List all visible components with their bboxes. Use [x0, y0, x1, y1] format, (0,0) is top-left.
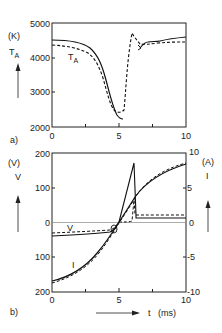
axis-label-i: I	[206, 171, 209, 181]
panel-label-b: b)	[10, 307, 18, 317]
panel-b: 200 100 0 100 200 10 5 0 -5 -10 0 5 10 (…	[8, 147, 214, 318]
ytick-right-0: 0	[189, 218, 194, 228]
curve-label-i: I	[72, 260, 75, 270]
xtick-0: 0	[49, 295, 54, 305]
xlabel-t: t	[148, 308, 151, 318]
ytick-right-10: 10	[189, 147, 199, 157]
panel-a-frame	[52, 23, 186, 127]
ytick-3000: 3000	[30, 87, 50, 97]
unit-a: (A)	[202, 157, 214, 167]
ytick-left-neg100: 100	[35, 252, 50, 262]
ytick-5000: 5000	[30, 19, 50, 29]
ytick-right-5: 5	[187, 183, 192, 193]
series-ta-dashed	[52, 33, 186, 112]
xtick-10: 10	[181, 295, 191, 305]
ytick-left-0: 0	[45, 218, 50, 228]
unit-v: (V)	[8, 158, 20, 168]
ytick-left-200: 200	[35, 149, 50, 159]
ytick-left-neg200: 200	[35, 287, 50, 297]
curve-label-v: V	[67, 223, 73, 233]
arrowhead-icon	[16, 63, 21, 71]
axis-label-t: TA	[9, 47, 20, 59]
figure: 5000 4000 3000 2000 0 5 10 (K) TA TA a)	[0, 0, 222, 333]
unit-k: (K)	[8, 31, 20, 41]
ytick-right-neg5: -5	[187, 252, 195, 262]
ytick-4000: 4000	[30, 53, 50, 63]
xtick-0: 0	[49, 131, 54, 141]
ytick-2000: 2000	[30, 123, 50, 133]
ytick-left-100: 100	[35, 183, 50, 193]
xtick-5: 5	[116, 295, 121, 305]
xtick-5: 5	[116, 131, 121, 141]
curve-label-ta: TA	[68, 52, 79, 64]
xlabel-unit: (ms)	[158, 308, 176, 318]
panel-label-a: a)	[10, 135, 18, 145]
xtick-10: 10	[181, 131, 191, 141]
panel-a: 5000 4000 3000 2000 0 5 10 (K) TA TA a)	[8, 19, 191, 145]
axis-label-v: V	[15, 172, 21, 182]
